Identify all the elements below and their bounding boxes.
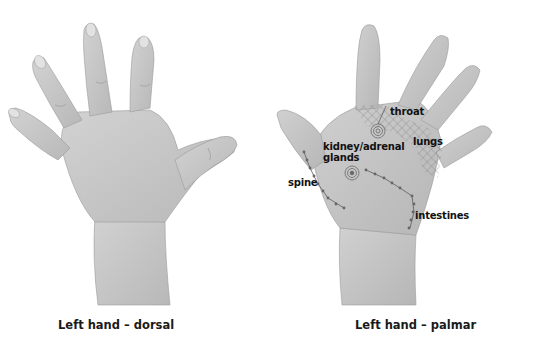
label-kidney-adrenal-line2: glands <box>323 152 359 163</box>
kidney-reflex-point <box>345 166 359 180</box>
label-intestines: intestines <box>415 210 469 221</box>
label-spine: spine <box>288 177 317 188</box>
label-kidney-adrenal-line1: kidney/adrenal <box>323 141 404 152</box>
label-throat: throat <box>390 106 424 117</box>
dorsal-hand-illustration <box>0 0 266 310</box>
label-lungs: lungs <box>413 136 443 147</box>
palmar-hand-panel: throat lungs kidney/adrenal glands spine… <box>266 0 533 342</box>
palmar-caption: Left hand – palmar <box>355 318 476 332</box>
palmar-hand-illustration <box>266 0 533 310</box>
dorsal-hand-panel: Left hand – dorsal <box>0 0 266 342</box>
dorsal-caption: Left hand – dorsal <box>58 318 174 332</box>
